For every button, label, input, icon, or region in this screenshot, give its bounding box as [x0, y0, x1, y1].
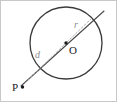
diagram-canvas: O P d r	[0, 0, 117, 102]
label-o: O	[69, 44, 77, 56]
geometry-figure: O P d r	[0, 0, 117, 102]
label-r: r	[74, 19, 78, 30]
point-p-dot	[21, 85, 24, 88]
label-p: P	[12, 81, 18, 93]
point-o-dot	[64, 41, 67, 44]
